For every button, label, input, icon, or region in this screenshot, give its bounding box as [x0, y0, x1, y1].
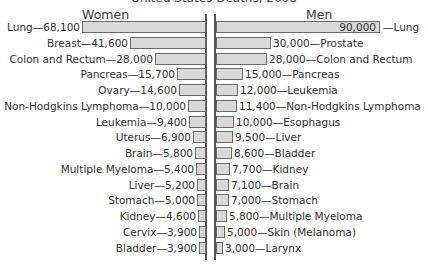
men-bar-label: —Lung [383, 20, 419, 34]
chart-title: United States Deaths, 2008 [0, 0, 428, 5]
women-bar-label: Multiple Myeloma—5,400 [61, 162, 194, 176]
men-bar [216, 116, 234, 128]
women-bar [197, 179, 206, 191]
men-bar [216, 163, 230, 175]
women-bar [130, 37, 206, 49]
women-bar [195, 147, 206, 159]
men-bar-label: 28,000—Colon and Rectum [269, 52, 412, 66]
women-bar [198, 210, 206, 222]
men-bar-label: 3,000—Larynx [225, 241, 301, 255]
women-bar [177, 68, 206, 80]
men-bar-label: 11,400—Non-Hodgkins Lymphoma [239, 99, 421, 113]
women-bar-label: Bladder—3,900 [116, 241, 197, 255]
men-bar [216, 84, 238, 96]
women-bar-label: Ovary—14,600 [98, 83, 177, 97]
women-bar [197, 194, 206, 206]
women-bar-label: Leukemia—9,400 [96, 115, 187, 129]
women-bar-label: Lung—68,100 [7, 20, 80, 34]
men-bar-label: 30,000—Prostate [273, 36, 364, 50]
women-bar-label: Stomach—5,000 [108, 193, 195, 207]
men-bar-label: 10,000—Esophagus [236, 115, 340, 129]
women-bar [188, 100, 206, 112]
men-bar: 90,000 [216, 21, 380, 33]
men-bar-label: 8,600—Bladder [234, 146, 315, 160]
women-bar-label: Uterus—6,900 [116, 130, 191, 144]
women-bar-label: Liver—5,200 [129, 178, 195, 192]
women-bar-label: Pancreas—15,700 [81, 67, 175, 81]
women-bar [196, 163, 206, 175]
men-bar-label: 5,800—Multiple Myeloma [229, 209, 362, 223]
women-bar-label: Cervix—3,900 [123, 225, 197, 239]
men-bar [216, 131, 233, 143]
men-bar-label: 7,100—Brain [231, 178, 299, 192]
men-bar [216, 100, 237, 112]
men-bar [216, 68, 243, 80]
men-header: Men [306, 7, 332, 22]
men-bar [216, 179, 229, 191]
men-bar-label: 9,500—Liver [235, 130, 301, 144]
women-bar-label: Breast—41,600 [47, 36, 128, 50]
women-bar [199, 226, 206, 238]
women-header: Women [82, 7, 129, 22]
women-bar [82, 21, 206, 33]
women-bar [189, 116, 206, 128]
men-bar [216, 242, 223, 254]
men-bar-value: 90,000 [339, 20, 376, 34]
women-bar [199, 242, 206, 254]
men-bar-label: 7,700—Kidney [232, 162, 308, 176]
women-bar-label: Kidney—4,600 [120, 209, 196, 223]
women-bar [179, 84, 206, 96]
men-bar-label: 12,000—Leukemia [240, 83, 338, 97]
women-bar [193, 131, 206, 143]
women-bar-label: Non-Hodgkins Lymphoma—10,000 [4, 99, 186, 113]
men-bar [216, 37, 271, 49]
men-bar-label: 15,000—Pancreas [245, 67, 339, 81]
men-bar [216, 226, 225, 238]
men-bar-label: 7,000—Stomach [231, 193, 318, 207]
men-bar [216, 53, 267, 65]
men-bar [216, 210, 227, 222]
women-bar [155, 53, 206, 65]
women-bar-label: Colon and Rectum—28,000 [10, 52, 153, 66]
men-bar [216, 147, 232, 159]
women-bar-label: Brain—5,800 [125, 146, 193, 160]
men-bar-label: 5,000—Skin (Melanoma) [227, 225, 356, 239]
men-bar [216, 194, 229, 206]
